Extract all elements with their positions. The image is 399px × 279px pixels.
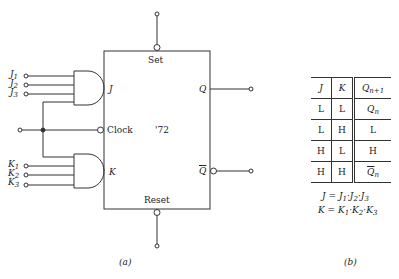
header-q-sub: n+1 (369, 87, 384, 95)
header-j: J (311, 78, 332, 99)
cell-k: H (332, 162, 354, 183)
k-eq-t1: K (338, 205, 345, 215)
k-equation: K = K1·K2·K3 (318, 205, 377, 215)
k2-input-terminal[interactable] (24, 173, 28, 177)
k-eq-t2: K (352, 205, 359, 215)
cell-j: L (311, 120, 332, 141)
truth-table: J K Qn+1 L L Qn L H L H L H H H Qn (311, 77, 391, 183)
cell-q-sub: n (374, 108, 379, 116)
cell-q: L (354, 120, 392, 141)
cell-j: H (311, 141, 332, 162)
table-row: L H L (311, 120, 391, 141)
reset-input-terminal[interactable] (155, 244, 159, 248)
part-number-label: '72 (155, 125, 169, 135)
header-qn1: Qn+1 (354, 78, 392, 99)
j3-input-terminal[interactable] (24, 92, 28, 96)
cell-q: Qn (354, 99, 392, 120)
reset-inversion-bubble (154, 210, 160, 216)
set-label: Set (148, 55, 163, 65)
table-row: H L H (311, 141, 391, 162)
qbar-output-terminal[interactable] (249, 169, 253, 173)
k3-sub: 3 (15, 181, 19, 189)
clock-pin-label: Clock (107, 125, 133, 135)
clock-input-terminal[interactable] (18, 128, 22, 132)
cell-q-base: L (370, 125, 376, 135)
cell-q-base: H (369, 146, 377, 156)
set-inversion-bubble (154, 45, 160, 51)
k3-base: K (8, 177, 15, 187)
k1-input-terminal[interactable] (24, 164, 28, 168)
j3-label: J3 (10, 87, 18, 98)
k-eq-t3: K (366, 205, 373, 215)
cell-q-sub: n (374, 171, 379, 179)
table-header-row: J K Qn+1 (311, 78, 391, 99)
k-eq-s2: 2 (359, 209, 363, 217)
cell-q: H (354, 141, 392, 162)
table-row: L L Qn (311, 99, 391, 120)
j-eq-lhs: J (322, 191, 326, 201)
cell-j: H (311, 162, 332, 183)
set-input-terminal[interactable] (155, 12, 159, 16)
j-eq-s2: 2 (353, 195, 357, 203)
k-and-gate (74, 154, 104, 188)
j-eq-s1: 1 (342, 195, 346, 203)
q-output-terminal[interactable] (249, 87, 253, 91)
j2-input-terminal[interactable] (24, 83, 28, 87)
cell-k: L (332, 99, 354, 120)
j-pin-label: J (109, 84, 113, 94)
k-eq-lhs: K (318, 205, 325, 215)
figure-b-caption: (b) (344, 257, 357, 267)
k3-input-terminal[interactable] (24, 183, 28, 187)
clock-inversion-bubble (98, 127, 104, 133)
k-eq-s3: 3 (373, 209, 377, 217)
k3-label: K3 (8, 177, 19, 188)
qbar-inversion-bubble (211, 168, 217, 174)
k-pin-label: K (109, 167, 116, 177)
j1-input-terminal[interactable] (24, 74, 28, 78)
figure-a-caption: (a) (119, 257, 131, 267)
cell-j: L (311, 99, 332, 120)
j3-sub: 3 (14, 91, 18, 99)
reset-label: Reset (144, 195, 170, 205)
j-eq-s3: 3 (364, 195, 368, 203)
qbar-output-label: Q (199, 166, 206, 176)
j-equation: J = J1·J2·J3 (322, 191, 369, 201)
cell-k: L (332, 141, 354, 162)
j-and-gate (74, 71, 104, 105)
q-output-label: Q (199, 84, 206, 94)
table-row: H H Qn (311, 162, 391, 183)
cell-q: Qn (354, 162, 392, 183)
k-eq-s1: 1 (345, 209, 349, 217)
cell-k: H (332, 120, 354, 141)
header-k: K (332, 78, 354, 99)
